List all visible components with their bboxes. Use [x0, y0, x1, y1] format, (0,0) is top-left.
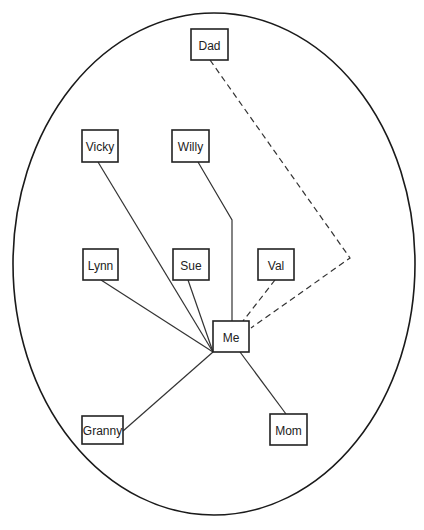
node-granny: Granny: [82, 416, 123, 444]
node-label: Vicky: [86, 140, 114, 154]
node-label: Willy: [178, 140, 203, 154]
node-label: Val: [268, 259, 284, 273]
node-sue: Sue: [173, 249, 209, 280]
edges-layer: [98, 60, 350, 431]
node-label: Sue: [180, 259, 202, 273]
node-dad: Dad: [191, 29, 228, 60]
edge-me-mom: [240, 352, 286, 414]
node-vicky: Vicky: [82, 130, 118, 162]
node-label: Mom: [275, 424, 302, 438]
node-me: Me: [213, 321, 249, 352]
nodes-layer: DadVickyWillyLynnSueValMeGrannyMom: [82, 29, 307, 445]
edge-willy-me: [198, 162, 232, 321]
edge-dad-me: [210, 60, 350, 328]
node-label: Lynn: [88, 259, 114, 273]
node-lynn: Lynn: [83, 249, 118, 280]
node-label: Granny: [83, 424, 122, 438]
ego-network-diagram: DadVickyWillyLynnSueValMeGrannyMom: [0, 0, 424, 530]
node-val: Val: [258, 249, 294, 280]
node-label: Dad: [198, 39, 220, 53]
edge-granny-me: [123, 352, 213, 431]
node-mom: Mom: [270, 414, 307, 445]
node-label: Me: [223, 331, 240, 345]
edge-lynn-me: [101, 280, 213, 352]
network-boundary-ellipse: [13, 13, 415, 515]
node-willy: Willy: [172, 130, 209, 162]
